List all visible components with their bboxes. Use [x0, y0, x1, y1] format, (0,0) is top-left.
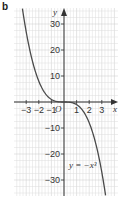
y-tick-label: −10 [45, 123, 60, 133]
x-tick-label: 2 [87, 105, 92, 115]
y-tick-label: 30 [50, 19, 60, 29]
x-tick-label: 3 [99, 105, 104, 115]
y-tick-label: 20 [50, 45, 60, 55]
cubic-graph: −3−2−1123302010−10−20−30 x y O y = −x³ [0, 0, 121, 200]
x-axis-label: x [112, 104, 117, 114]
y-axis-label: y [52, 7, 57, 17]
y-tick-label: 10 [50, 71, 60, 81]
x-tick-label: −3 [21, 105, 31, 115]
x-tick-label: −2 [34, 105, 44, 115]
y-tick-label: −30 [45, 175, 60, 185]
y-tick-label: −20 [45, 149, 60, 159]
y-axis-arrow-icon [61, 8, 67, 16]
equation-label: y = −x³ [68, 160, 97, 170]
origin-label: O [55, 104, 62, 114]
